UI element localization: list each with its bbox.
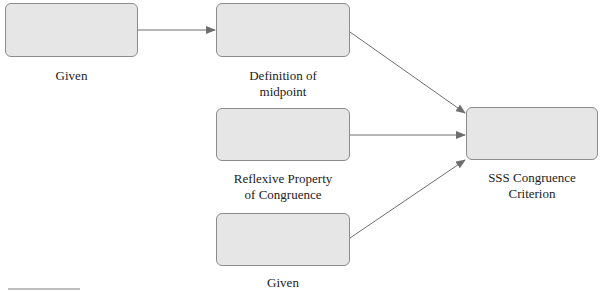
label-line: Reflexive Property	[206, 171, 360, 187]
label-line: of Congruence	[206, 187, 360, 203]
divider	[8, 288, 80, 290]
label-line: midpoint	[216, 84, 350, 100]
node-box-given-1[interactable]	[5, 3, 138, 57]
node-box-sss-congruence[interactable]	[466, 107, 598, 160]
node-label-reflexive-property: Reflexive Property of Congruence	[206, 171, 360, 203]
node-label-given-1: Given	[5, 68, 138, 84]
node-label-definition-of-midpoint: Definition of midpoint	[216, 68, 350, 100]
label-line: Definition of	[216, 68, 350, 84]
arrow-midpoint-to-sss	[350, 32, 465, 113]
label-text: Given	[56, 68, 88, 83]
label-text: Given	[267, 275, 299, 290]
node-label-given-2: Given	[216, 275, 350, 291]
arrow-given2-to-sss	[350, 160, 465, 238]
node-box-reflexive-property[interactable]	[216, 108, 350, 161]
node-box-definition-of-midpoint[interactable]	[216, 3, 350, 57]
node-box-given-2[interactable]	[216, 213, 350, 266]
label-line: Criterion	[456, 186, 601, 202]
label-line: SSS Congruence	[456, 170, 601, 186]
node-label-sss-congruence: SSS Congruence Criterion	[456, 170, 601, 202]
